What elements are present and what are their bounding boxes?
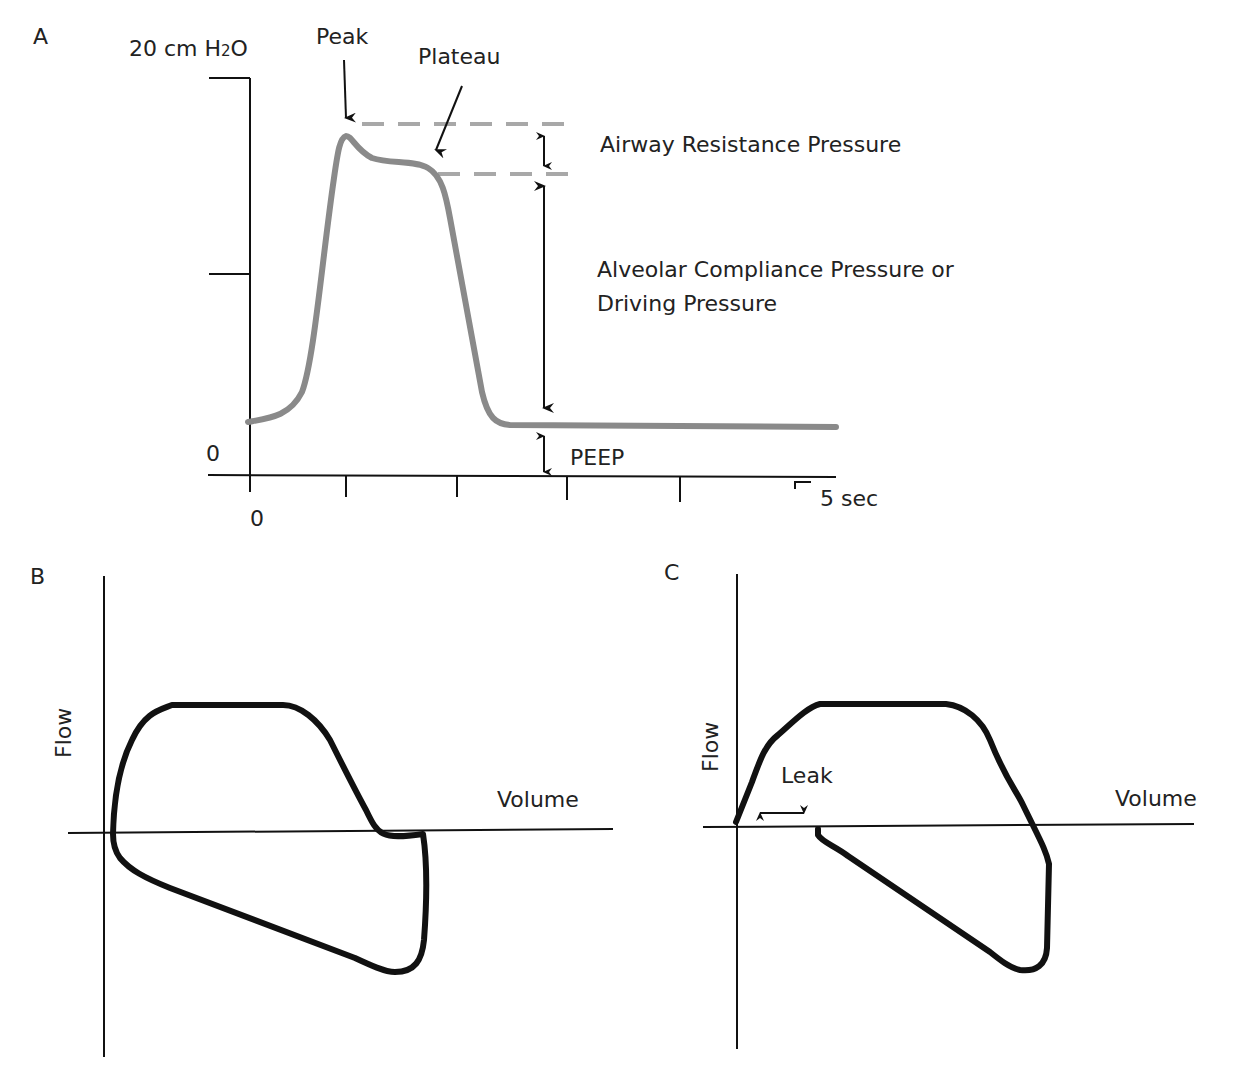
plateau-label: Plateau <box>418 44 500 69</box>
peep-label: PEEP <box>570 445 624 470</box>
x-axis <box>208 475 836 477</box>
panel-a-letter: A <box>33 24 48 49</box>
volume-axis <box>703 824 1194 827</box>
volume-axis <box>68 829 613 833</box>
leak-label: Leak <box>781 763 833 788</box>
leak-flow-volume-loop <box>736 704 1049 970</box>
panel-c: C Flow Volume Leak <box>664 560 1197 1049</box>
panel-c-letter: C <box>664 560 679 585</box>
plateau-arrow <box>436 86 462 150</box>
panel-b: B Flow Volume <box>30 564 613 1057</box>
panel-a: A 20 cm H2O 0 0 5 sec Peak Plateau Airwa… <box>33 24 955 531</box>
y-zero-label: 0 <box>206 441 220 466</box>
y-max-label: 20 cm H2O <box>129 36 248 61</box>
flow-volume-loop <box>113 705 426 972</box>
scale-label: 5 sec <box>820 486 878 511</box>
flow-label: Flow <box>698 722 723 772</box>
scale-bar <box>795 482 811 489</box>
figure: A 20 cm H2O 0 0 5 sec Peak Plateau Airwa… <box>0 0 1236 1074</box>
peak-label: Peak <box>316 24 368 49</box>
driving-pressure-label-2: Driving Pressure <box>597 291 777 316</box>
flow-label: Flow <box>51 708 76 758</box>
peak-arrow <box>344 60 346 118</box>
x-zero-label: 0 <box>250 506 264 531</box>
driving-pressure-label-1: Alveolar Compliance Pressure or <box>597 257 955 282</box>
volume-label: Volume <box>1115 786 1197 811</box>
panel-b-letter: B <box>30 564 45 589</box>
airway-resistance-label: Airway Resistance Pressure <box>600 132 901 157</box>
volume-label: Volume <box>497 787 579 812</box>
